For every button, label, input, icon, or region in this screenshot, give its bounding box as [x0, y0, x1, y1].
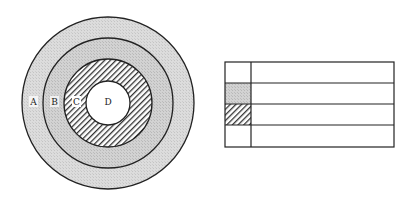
diagram-canvas: A B C D: [0, 0, 418, 202]
key-cell-row-1: [225, 62, 251, 83]
label-d: D: [104, 97, 111, 107]
key-cell-row-4: [225, 125, 251, 147]
label-a: A: [29, 97, 37, 107]
label-b: B: [51, 97, 58, 107]
key-cell-row-3-hatched: [225, 104, 251, 125]
key-table: [225, 62, 394, 147]
label-c: C: [73, 97, 80, 107]
key-cell-row-2-stipple: [225, 83, 251, 104]
